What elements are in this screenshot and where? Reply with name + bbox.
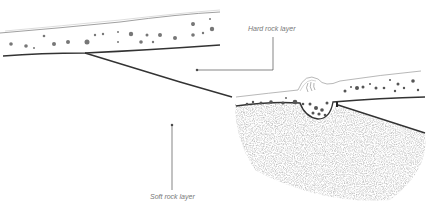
soft-rock-label: Soft rock layer bbox=[150, 193, 195, 200]
rock-layers-illustration bbox=[0, 0, 437, 219]
soft-rock-right bbox=[235, 102, 426, 201]
hard-rock-label: Hard rock layer bbox=[248, 25, 295, 32]
soft-rock-left bbox=[0, 53, 232, 143]
